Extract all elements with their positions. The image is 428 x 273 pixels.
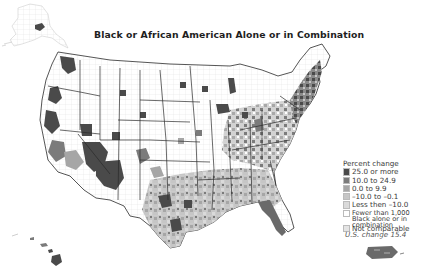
legend: Percent change 25.0 or more 10.0 to 24.9… [343,160,428,233]
hawaii [12,234,62,266]
legend-swatch [343,185,350,192]
puerto-rico [366,246,404,259]
legend-label: Less then –10.0 [352,201,408,208]
legend-label: 10.0 to 24.9 [352,177,396,184]
legend-swatch [343,201,350,208]
legend-swatch [343,193,350,200]
us-change-note: U.S. change 15.4 [345,230,406,239]
contiguous-us [40,44,330,248]
legend-swatch [343,210,350,217]
legend-label: 25.0 or more [352,168,399,175]
legend-label: 0.0 to 9.9 [352,185,387,192]
legend-swatch [343,177,350,184]
legend-item: Fewer than 1,000 Black alone or in combi… [343,210,428,225]
alaska [2,4,68,48]
legend-swatch [343,168,350,175]
legend-title: Percent change [343,160,428,167]
legend-label: –10.0 to –0.1 [352,193,398,200]
